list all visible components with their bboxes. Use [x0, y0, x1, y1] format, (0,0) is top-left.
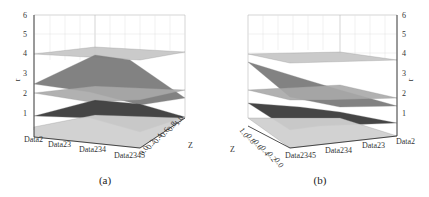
svg-text:2: 2	[23, 89, 27, 98]
svg-text:1: 1	[23, 109, 27, 118]
svg-text:Data2: Data2	[24, 135, 43, 144]
svg-text:5: 5	[402, 30, 406, 39]
caption-a: (a)	[99, 174, 112, 187]
y-ticks-b: 6 5 4 3 2 1 r	[402, 11, 415, 118]
z-axis-label-b: Z	[230, 145, 235, 154]
svg-text:Data23: Data23	[362, 141, 385, 150]
svg-text:Data2345: Data2345	[285, 151, 316, 160]
svg-text:Data2: Data2	[396, 137, 415, 146]
svg-text:4: 4	[23, 49, 27, 58]
svg-text:3: 3	[402, 69, 406, 78]
y-axis-label-a: r	[13, 78, 22, 81]
svg-text:6: 6	[402, 11, 406, 20]
svg-text:1: 1	[402, 109, 406, 118]
svg-text:Data234: Data234	[79, 145, 106, 154]
svg-text:3: 3	[23, 69, 27, 78]
surface-b-3	[248, 85, 397, 100]
svg-text:5: 5	[23, 30, 27, 39]
surface-b-1	[248, 52, 397, 63]
y-axis-label-b: r	[406, 78, 415, 81]
caption-b: (b)	[314, 174, 327, 187]
surfaces-b	[248, 52, 397, 148]
figure: 6 5 4 3 2 1 r Data2 Data23 Data234 Data2…	[0, 0, 429, 197]
svg-text:6: 6	[23, 11, 27, 20]
svg-text:Data234: Data234	[325, 146, 352, 155]
svg-text:2: 2	[402, 89, 406, 98]
panel-b: 6 5 4 3 2 1 r Data2345 Data234 Data23 Da…	[230, 11, 415, 187]
z-axis-label-a: Z	[188, 141, 193, 150]
svg-text:Data23: Data23	[48, 140, 71, 149]
y-ticks-a: 6 5 4 3 2 1 r	[13, 11, 27, 118]
panel-a: 6 5 4 3 2 1 r Data2 Data23 Data234 Data2…	[13, 11, 193, 187]
surface-b-2	[248, 62, 397, 107]
svg-text:4: 4	[402, 49, 406, 58]
